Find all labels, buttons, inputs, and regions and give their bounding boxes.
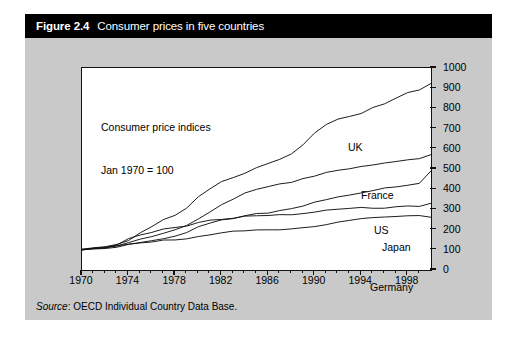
y-axis-tick (430, 87, 436, 88)
figure-caption: Consumer prices in five countries (97, 20, 264, 32)
x-tick-label: 1986 (255, 275, 278, 286)
figure-panel: Figure 2.4 Consumer prices in five count… (25, 14, 492, 320)
y-tick-label: 700 (443, 122, 461, 133)
x-axis-minor-tick (185, 270, 186, 273)
y-axis-tick (430, 248, 436, 249)
x-axis-minor-tick (139, 270, 140, 273)
x-tick-label: 1994 (349, 275, 372, 286)
series-label-japan: Japan (382, 242, 411, 253)
x-axis-minor-tick (115, 270, 116, 273)
y-tick-label: 900 (443, 82, 461, 93)
chart-region: 01002003004005006007008009001000 1970197… (25, 38, 492, 297)
x-axis-minor-tick (243, 270, 244, 273)
y-axis-tick (430, 268, 436, 269)
x-axis-tick (80, 270, 81, 275)
x-axis-minor-tick (371, 270, 372, 273)
annotation-line-2: Jan 1970 = 100 (101, 163, 211, 177)
series-label-germany: Germany (370, 282, 413, 293)
x-axis-minor-tick (150, 270, 151, 273)
x-tick-label: 1970 (69, 275, 92, 286)
x-axis-tick (313, 270, 314, 275)
x-axis-minor-tick (290, 270, 291, 273)
x-axis-tick (220, 270, 221, 275)
y-axis-tick (430, 167, 436, 168)
y-axis-tick (430, 127, 436, 128)
series-label-uk: UK (348, 142, 363, 153)
x-axis-minor-tick (336, 270, 337, 273)
source-text: : OECD Individual Country Data Base. (68, 301, 238, 312)
y-axis-tick (430, 208, 436, 209)
x-axis-minor-tick (325, 270, 326, 273)
x-axis-tick (127, 270, 128, 275)
x-axis-tick (406, 270, 407, 275)
chart-annotation: Consumer price indices Jan 1970 = 100 (101, 92, 211, 205)
x-axis-minor-tick (208, 270, 209, 273)
y-tick-label: 0 (443, 264, 449, 275)
y-tick-label: 500 (443, 163, 461, 174)
x-axis-minor-tick (162, 270, 163, 273)
x-axis-minor-tick (383, 270, 384, 273)
y-tick-label: 100 (443, 244, 461, 255)
y-axis-tick (430, 188, 436, 189)
figure-title-bar: Figure 2.4 Consumer prices in five count… (25, 14, 492, 38)
series-label-us: US (374, 225, 389, 236)
x-axis-minor-tick (92, 270, 93, 273)
x-axis-minor-tick (348, 270, 349, 273)
x-axis-minor-tick (395, 270, 396, 273)
y-tick-label: 400 (443, 183, 461, 194)
y-axis-tick (430, 66, 436, 67)
x-tick-label: 1978 (162, 275, 185, 286)
y-tick-label: 600 (443, 143, 461, 154)
x-axis-minor-tick (255, 270, 256, 273)
x-tick-label: 1974 (116, 275, 139, 286)
figure-number: Figure 2.4 (36, 20, 89, 32)
source-note: Source: OECD Individual Country Data Bas… (36, 301, 237, 312)
x-axis-minor-tick (104, 270, 105, 273)
series-label-france: France (361, 190, 394, 201)
x-axis-minor-tick (418, 270, 419, 273)
x-axis-tick (173, 270, 174, 275)
y-tick-label: 200 (443, 223, 461, 234)
x-axis-minor-tick (302, 270, 303, 273)
x-axis-tick (267, 270, 268, 275)
y-tick-label: 300 (443, 203, 461, 214)
x-tick-label: 1982 (209, 275, 232, 286)
x-axis-minor-tick (232, 270, 233, 273)
x-axis-minor-tick (197, 270, 198, 273)
y-axis-tick (430, 147, 436, 148)
y-tick-label: 1000 (443, 62, 466, 73)
x-axis-tick (360, 270, 361, 275)
x-axis-minor-tick (278, 270, 279, 273)
y-tick-label: 800 (443, 102, 461, 113)
x-tick-label: 1990 (302, 275, 325, 286)
source-label: Source (36, 301, 68, 312)
annotation-line-1: Consumer price indices (101, 120, 211, 134)
y-axis-tick (430, 107, 436, 108)
y-axis-tick (430, 228, 436, 229)
